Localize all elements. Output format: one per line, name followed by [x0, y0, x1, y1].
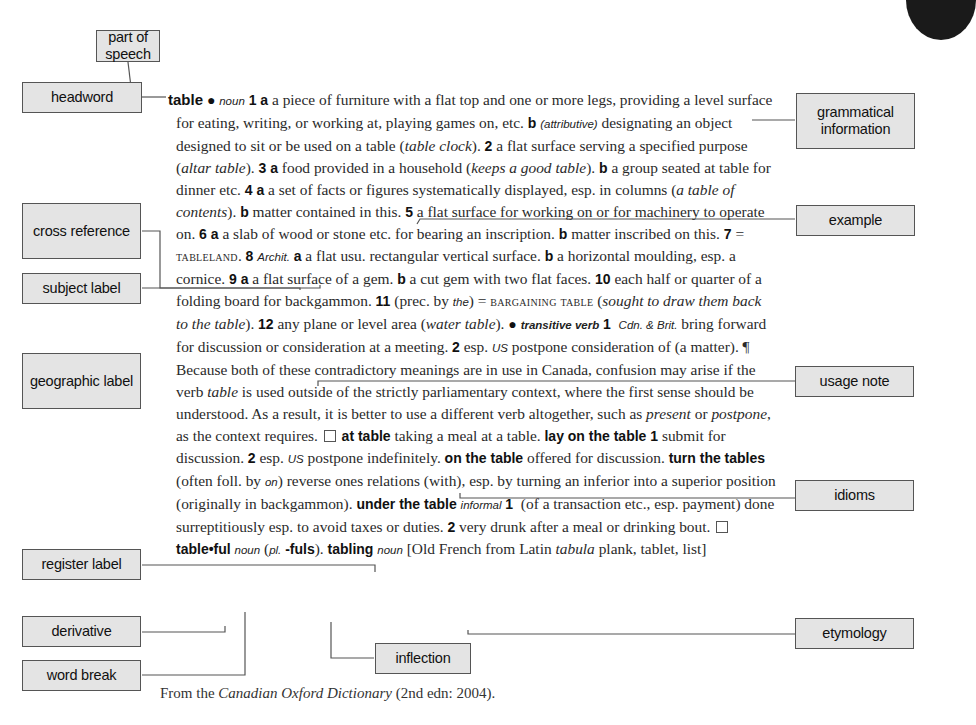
sense-number: 10	[595, 271, 611, 287]
sense-number: 11	[376, 293, 391, 309]
part-of-speech: noun	[219, 95, 245, 107]
grammar-word: on	[265, 476, 278, 488]
callout-example: example	[796, 205, 915, 236]
connector-etymology	[468, 630, 795, 634]
source-title: Canadian Oxford Dictionary	[218, 685, 392, 701]
subsense-label: b	[599, 160, 608, 176]
callout-label: derivative	[51, 623, 111, 640]
bullet: ●	[207, 92, 215, 108]
headword: table	[168, 91, 203, 108]
punct: ).	[495, 315, 508, 332]
grammatical-information: (attributive)	[540, 118, 598, 130]
definition: matter contained in this.	[249, 203, 405, 220]
definition: matter inscribed on this.	[567, 225, 723, 242]
callout-word-break: word break	[22, 660, 141, 691]
etymology-text: [Old French from Latin	[403, 540, 556, 557]
dictionary-entry: table ● noun 1 a a piece of furniture wi…	[168, 89, 776, 561]
usage-text: or	[691, 405, 712, 422]
punct: esp.	[460, 338, 492, 355]
idiom: turn the tables	[669, 450, 765, 466]
definition: a slab of wood or stone etc. for bearing…	[219, 225, 559, 242]
sense-number: 8	[246, 248, 254, 264]
callout-label: subject label	[42, 280, 120, 297]
cross-reference: bargaining table	[490, 294, 593, 309]
definition: offered for discussion.	[523, 449, 668, 466]
callout-label: part of speech	[97, 29, 159, 63]
geographic-label: US	[492, 342, 508, 354]
sense-number: 1	[249, 92, 257, 108]
callout-register-label: register label	[22, 549, 141, 580]
subsense-label: a	[260, 92, 268, 108]
derivative: tabling	[328, 541, 374, 557]
cross-reference: tableland	[176, 249, 238, 264]
sense-number: 5	[405, 204, 413, 220]
example: water table	[426, 315, 496, 332]
callout-label: register label	[41, 556, 121, 573]
definition: a flat usu. rectangular vertical surface…	[302, 247, 545, 264]
subject-label: Archit.	[257, 251, 290, 263]
callout-grammatical-information: grammatical information	[796, 93, 915, 149]
callout-cross-reference: cross reference	[22, 203, 141, 259]
register-label: informal	[461, 499, 502, 511]
sense-number: 1	[646, 428, 658, 444]
punct: (prec. by	[390, 292, 452, 309]
usage-word: table	[207, 383, 238, 400]
connector-inflection	[331, 622, 374, 658]
callout-label: etymology	[822, 625, 886, 642]
callout-derivative: derivative	[22, 616, 141, 647]
callout-label: example	[829, 212, 882, 229]
punct: (	[593, 292, 602, 309]
subsense-label: a	[211, 226, 219, 242]
punct: .	[238, 247, 246, 264]
sense-number: 6	[199, 226, 207, 242]
callout-label: idioms	[834, 487, 875, 504]
grammar-word: pl.	[269, 544, 281, 556]
sense-number: 3	[259, 160, 267, 176]
punct: (	[260, 540, 269, 557]
definition: very drunk after a meal or drinking bout…	[455, 518, 714, 535]
sense-number: 12	[258, 316, 274, 332]
subsense-label: a	[294, 248, 302, 264]
callout-label: grammatical information	[797, 104, 914, 138]
usage-note-mark: ¶	[743, 338, 750, 355]
punct: ) =	[469, 292, 491, 309]
callout-headword: headword	[22, 82, 142, 113]
subsense-label: b	[545, 248, 554, 264]
sense-number: 7	[724, 226, 732, 242]
geographic-label: US	[288, 453, 304, 465]
connector-word-break	[142, 612, 245, 675]
idiom-text: at	[342, 428, 358, 444]
definition: any plane or level area (	[274, 315, 426, 332]
derivatives-box-icon	[716, 521, 728, 533]
sense-number: 1	[603, 316, 611, 332]
etymology: [Old French from Latin tabula plank, tab…	[403, 540, 707, 557]
punct: ).	[246, 159, 259, 176]
punct: ).	[227, 203, 240, 220]
definition: taking a meal at a table.	[391, 427, 545, 444]
callout-part-of-speech: part of speech	[96, 30, 160, 62]
definition: postpone consideration of (a matter).	[508, 338, 743, 355]
sense-number: 2	[248, 450, 256, 466]
sense-number: 4	[245, 182, 253, 198]
punct: ).	[586, 159, 599, 176]
callout-etymology: etymology	[795, 618, 914, 649]
sense-number: 1	[505, 496, 513, 512]
source-text: (2nd edn: 2004).	[392, 685, 495, 701]
callout-label: usage note	[820, 373, 890, 390]
part-of-speech: noun	[377, 544, 403, 556]
punct: esp.	[256, 449, 288, 466]
part-of-speech: noun	[235, 544, 261, 556]
callout-label: inflection	[395, 650, 450, 667]
punct: =	[732, 225, 745, 242]
callout-label: cross reference	[33, 223, 130, 240]
etymology-word: tabula	[555, 540, 594, 557]
callout-idioms: idioms	[795, 480, 914, 511]
punct: ).	[315, 540, 328, 557]
bullet: ●	[508, 316, 516, 332]
idiom: on the table	[445, 450, 524, 466]
subsense-label: a	[270, 160, 278, 176]
subsense-label: b	[397, 271, 406, 287]
subsense-label: b	[528, 115, 537, 131]
sense-number: 2	[452, 339, 460, 355]
callout-geographic-label: geographic label	[22, 353, 141, 409]
